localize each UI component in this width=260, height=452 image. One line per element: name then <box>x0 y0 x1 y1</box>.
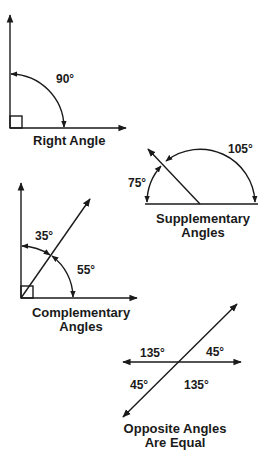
angle-label-bottom-right: 135° <box>184 378 209 392</box>
arc-105 <box>166 149 255 202</box>
angle-label-top-right: 45° <box>206 345 224 359</box>
opposite-angles-diagram: 135° 45° 45° 135° Opposite Angles Are Eq… <box>123 304 241 450</box>
angle-label-75: 75° <box>128 176 146 190</box>
right-angle-diagram: 90° Right Angle <box>10 15 126 148</box>
arc-75 <box>147 166 161 202</box>
angle-label-90: 90° <box>56 72 74 86</box>
arc-35 <box>22 246 50 255</box>
angle-label-bottom-left: 45° <box>130 378 148 392</box>
right-angle-square-icon <box>10 116 22 128</box>
caption-supplementary-line1: Supplementary <box>156 211 251 226</box>
caption-opposite-line2: Are Equal <box>145 435 206 450</box>
caption-complementary-line1: Complementary <box>32 305 131 320</box>
caption-opposite-line1: Opposite Angles <box>124 421 227 436</box>
angle-label-top-left: 135° <box>140 346 165 360</box>
angle-label-105: 105° <box>228 142 253 156</box>
caption-complementary-line2: Angles <box>59 319 102 334</box>
complementary-angles-diagram: 35° 55° Complementary Angles <box>21 183 137 334</box>
diagonal-line <box>123 304 237 417</box>
caption-right-angle: Right Angle <box>33 133 105 148</box>
angle-label-35: 35° <box>35 229 53 243</box>
caption-supplementary-line2: Angles <box>181 225 224 240</box>
diagonal-ray <box>21 199 90 298</box>
arc-55 <box>52 256 73 297</box>
ray <box>148 149 200 204</box>
angle-label-55: 55° <box>77 263 95 277</box>
angle-diagrams: 90° Right Angle 105° 75° Supplementary A… <box>0 0 260 452</box>
supplementary-angles-diagram: 105° 75° Supplementary Angles <box>128 142 258 240</box>
